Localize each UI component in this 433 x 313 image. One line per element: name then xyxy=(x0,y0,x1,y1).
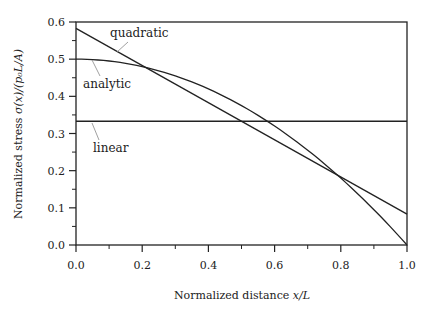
x-axis-label: Normalized distance x/L xyxy=(174,289,310,302)
x-tick-label: 0.6 xyxy=(266,259,284,272)
stress-chart: 0.00.10.20.30.40.50.60.00.20.40.60.81.0 … xyxy=(0,0,433,313)
linear-label: linear xyxy=(93,141,129,155)
y-tick-label: 0.6 xyxy=(48,16,66,29)
y-tick-label: 0.2 xyxy=(48,165,66,178)
data-curves xyxy=(76,28,407,245)
y-axis-label: Normalized stress σ(x)/(p₀L/A) xyxy=(12,49,25,219)
x-tick-label: 0.0 xyxy=(67,259,85,272)
quadratic-label: quadratic xyxy=(110,26,169,40)
curve-annotations: quadraticanalyticlinear xyxy=(83,26,169,155)
x-tick-label: 0.8 xyxy=(332,259,350,272)
y-tick-label: 0.4 xyxy=(48,90,66,103)
y-tick-label: 0.3 xyxy=(48,128,66,141)
analytic-label: analytic xyxy=(83,77,131,91)
x-tick-label: 0.2 xyxy=(133,259,151,272)
x-tick-label: 1.0 xyxy=(398,259,416,272)
y-tick-label: 0.5 xyxy=(48,53,66,66)
y-tick-label: 0.1 xyxy=(48,202,66,215)
x-tick-label: 0.4 xyxy=(200,259,218,272)
y-tick-label: 0.0 xyxy=(48,239,66,252)
